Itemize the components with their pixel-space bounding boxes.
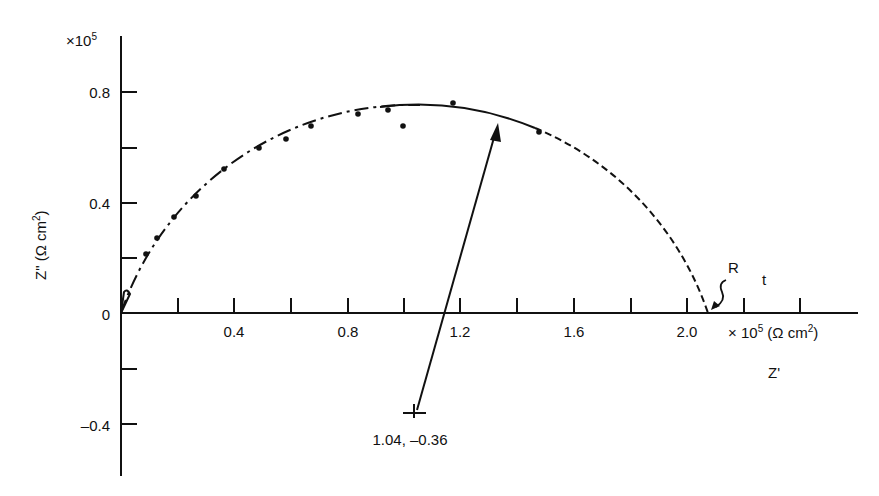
x-unit-label: × 105 (Ω cm2)	[728, 323, 818, 341]
y-ticks	[121, 92, 137, 424]
y-multiplier: ×105	[66, 31, 97, 49]
radius-arrow-head	[490, 123, 501, 142]
y-tick-label: –0.4	[81, 417, 110, 434]
rt-pointer-head	[711, 301, 720, 310]
rt-subscript: t	[762, 271, 767, 288]
y-axis-title: Z" (Ω cm2)	[31, 210, 49, 280]
y-tick-label: 0	[102, 306, 110, 323]
x-axis-title: Z'	[768, 364, 780, 381]
x-tick-label: 0.4	[224, 323, 245, 340]
fit-arc-left	[121, 105, 420, 313]
x-tick-label: 2.0	[677, 323, 698, 340]
x-tick-label: 1.2	[450, 323, 471, 340]
fit-arc-right	[535, 128, 708, 313]
nyquist-plot: 0.8 0.4 0 –0.4 ×105 Z" (Ω cm2) 0.4 0.8 1…	[0, 0, 879, 496]
y-tick-label: 0.8	[89, 84, 110, 101]
center-label: 1.04, –0.36	[372, 431, 447, 448]
rt-pointer	[716, 280, 726, 307]
rt-label: R	[728, 259, 739, 276]
x-tick-label: 0.8	[338, 323, 359, 340]
y-tick-label: 0.4	[89, 195, 110, 212]
x-tick-label: 1.6	[564, 323, 585, 340]
radius-arrow-line	[417, 134, 495, 410]
